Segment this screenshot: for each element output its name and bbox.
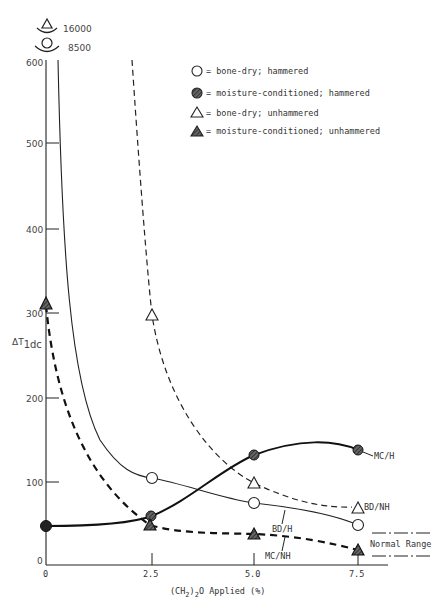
x-tick-0: 0	[43, 569, 48, 579]
bracket-arc-icon	[37, 28, 57, 33]
x-axis: 0 2.5 5.0 7.5 (CH2)2O Applied (%)	[43, 553, 388, 599]
label-mc-h: MC/H	[374, 451, 394, 461]
y-tick-500: 500	[26, 139, 43, 149]
x-tick-7-5: 7.5	[349, 569, 364, 579]
x-axis-label: (CH2)2O Applied (%)	[170, 586, 265, 599]
marker-bd-h-2-5	[147, 473, 158, 484]
marker-bd-nh-2-5	[146, 309, 158, 320]
markers	[40, 297, 364, 555]
series-mc-nh-line	[46, 305, 358, 550]
legend: = bone-dry; hammered = moisture-conditio…	[191, 66, 380, 136]
annotation-16000: 16000	[63, 24, 92, 34]
y-axis: 600 500 400 300 200 100 0 ΔT1dc	[12, 58, 59, 566]
marker-mc-nh-0	[40, 297, 52, 309]
circle-hatched-icon	[192, 88, 202, 98]
off-scale-annotation: 16000 8500	[35, 19, 92, 53]
x-tick-5-0: 5.0	[245, 569, 260, 579]
triangle-open-icon	[42, 19, 52, 28]
triangle-hatched-icon	[191, 126, 203, 136]
y-tick-0: 0	[37, 556, 43, 566]
marker-bd-h-5-0	[249, 498, 260, 509]
y-tick-300: 300	[26, 309, 43, 319]
label-mc-nh: MC/NH	[265, 551, 291, 561]
label-bd-nh: BD/NH	[364, 502, 390, 512]
y-tick-200: 200	[26, 394, 43, 404]
marker-mc-h-5-0	[249, 450, 259, 460]
circle-open-icon	[42, 38, 52, 48]
marker-mc-h-7-5	[353, 445, 363, 455]
marker-bd-nh-5-0	[248, 477, 260, 488]
marker-bd-nh-7-5	[352, 502, 364, 513]
marker-bd-h-7-5	[353, 520, 364, 531]
y-tick-600: 600	[26, 58, 43, 68]
y-axis-label: ΔT1dc	[12, 337, 42, 350]
marker-mc-h-2-5	[146, 511, 156, 521]
circle-open-icon	[192, 66, 202, 76]
marker-mc-h-0	[41, 521, 52, 532]
y-tick-100: 100	[26, 478, 43, 488]
series-mc-h-line	[46, 442, 358, 526]
x-tick-2-5: 2.5	[143, 569, 158, 579]
chart: 16000 8500 = bone-dry; hammered = moistu…	[0, 0, 447, 610]
legend-label-mc-nh: = moisture-conditioned; unhammered	[206, 126, 380, 136]
y-tick-400: 400	[26, 225, 43, 235]
legend-label-bd-nh: = bone-dry; unhammered	[206, 108, 319, 118]
legend-label-bd-h: = bone-dry; hammered	[206, 66, 308, 76]
triangle-open-icon	[191, 107, 203, 117]
annotation-8500: 8500	[68, 43, 91, 53]
normal-range-label: Normal Range	[370, 539, 431, 549]
legend-label-mc-h: = moisture-conditioned; hammered	[206, 88, 370, 98]
label-bd-h: BD/H	[272, 524, 292, 534]
normal-range: Normal Range	[370, 533, 432, 556]
